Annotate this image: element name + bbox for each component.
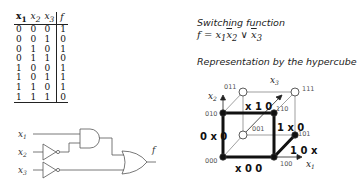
not-gate-x2 bbox=[43, 144, 56, 160]
table-row: 1110 bbox=[14, 93, 68, 103]
vertex-011 bbox=[239, 88, 247, 96]
vertex-101 bbox=[292, 132, 298, 138]
truth-table: x1 x2 x3 f 0001 0010 0101 0110 1001 1011… bbox=[14, 12, 68, 103]
input-x3-label: x3 bbox=[18, 165, 27, 176]
formula-sub3: 3 bbox=[257, 33, 262, 43]
switching-function-title: Switching function bbox=[197, 17, 285, 28]
svg-text:011: 011 bbox=[224, 83, 236, 91]
vertex-000 bbox=[220, 154, 226, 160]
hypercube-title: Representation by the hypercube bbox=[197, 56, 357, 67]
edge-label-0x0: 0 x 0 bbox=[200, 131, 227, 142]
vertex-100 bbox=[271, 154, 277, 160]
not-gate-x3 bbox=[43, 162, 56, 178]
truth-table-header: x1 x2 x3 f bbox=[14, 12, 68, 25]
output-f-label: f bbox=[151, 145, 157, 155]
input-x1-label: x1 bbox=[18, 129, 27, 140]
header-f: f bbox=[57, 12, 68, 25]
axis-x3-label: x3 bbox=[270, 75, 279, 86]
vertex-010 bbox=[220, 110, 226, 116]
vertex-110 bbox=[271, 110, 277, 116]
edge-label-10x: 1 0 x bbox=[290, 145, 318, 156]
svg-text:001: 001 bbox=[252, 125, 264, 133]
axis-x2-label: x2 bbox=[208, 91, 217, 102]
or-gate bbox=[122, 151, 147, 174]
edge-label-1x0: 1 x 0 bbox=[277, 122, 304, 133]
cell: 0 bbox=[57, 93, 68, 103]
axis-x1-label: x1 bbox=[306, 159, 315, 170]
svg-text:110: 110 bbox=[276, 105, 288, 113]
header-x3: x3 bbox=[42, 12, 56, 25]
cell: 1 bbox=[42, 93, 56, 103]
svg-text:101: 101 bbox=[298, 130, 310, 138]
cell: 1 bbox=[14, 93, 29, 103]
edge-label-x10: x 1 0 bbox=[245, 101, 272, 112]
edge-label-x00: x 0 0 bbox=[235, 163, 262, 174]
cell: 1 bbox=[29, 93, 43, 103]
svg-text:100: 100 bbox=[280, 160, 292, 168]
vertex-001 bbox=[239, 131, 247, 139]
and-gate bbox=[80, 129, 100, 148]
formula-lhs: f = x bbox=[197, 29, 221, 40]
input-x2-label: x2 bbox=[18, 147, 27, 158]
vertex-111 bbox=[291, 88, 299, 96]
header-x2: x2 bbox=[29, 12, 43, 25]
svg-text:010: 010 bbox=[205, 110, 217, 118]
switching-function-formula: f = x1x2 ∨ x3 bbox=[197, 29, 262, 43]
formula-or: ∨ bbox=[237, 29, 251, 40]
svg-text:111: 111 bbox=[302, 85, 314, 93]
svg-text:000: 000 bbox=[205, 157, 217, 165]
header-x1: x1 bbox=[14, 12, 29, 25]
